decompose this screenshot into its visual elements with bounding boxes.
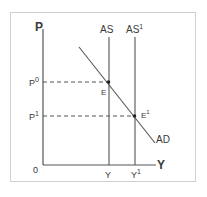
equilibrium-e1-point [133,114,137,118]
as-label: AS [100,24,114,35]
origin-label: 0 [33,165,38,175]
point-e-label: E [101,88,106,97]
y1-tick-label: Y1 [131,168,141,180]
y-tick-label: Y [105,170,111,180]
point-e1-label: E1 [141,109,150,120]
as1-label: AS1 [126,23,143,35]
diagram-canvas: P Y 0 AS AS1 AD E E1 P0 P1 Y Y1 [0,0,207,197]
frame [11,13,196,182]
ad-curve [79,47,155,143]
equilibrium-e-point [107,80,111,84]
as-ad-diagram: P Y 0 AS AS1 AD E E1 P0 P1 Y Y1 [0,0,207,197]
ad-label: AD [156,134,170,145]
x-axis-label: Y [157,158,165,172]
p1-label: P1 [29,110,39,122]
y-axis-label: P [35,20,43,34]
p0-label: P0 [29,76,39,88]
